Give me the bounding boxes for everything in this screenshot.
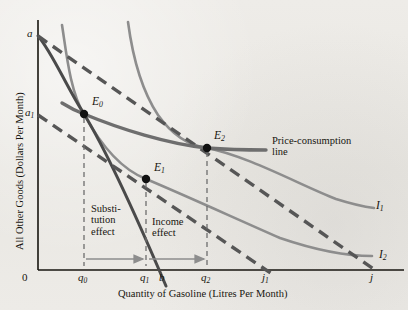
y-tick-a1: a1 — [25, 107, 34, 120]
x-tick-q2-sub: 2 — [207, 276, 211, 285]
y-axis-title: All Other Goods (Dollars Per Month) — [14, 92, 25, 250]
x-axis-title: Quantity of Gasoline (Litres Per Month) — [118, 288, 287, 299]
x-tick-q0: q0 — [78, 272, 87, 285]
label-i1: I1 — [376, 199, 384, 213]
x-tick-q1-sub: 1 — [146, 276, 150, 285]
x-tick-q1: q1 — [140, 272, 149, 285]
point-e2 — [203, 144, 211, 152]
income-line-1: Income — [152, 216, 184, 227]
point-e1 — [142, 175, 150, 183]
label-i1-sub: 1 — [380, 204, 384, 213]
label-i2-sub: 2 — [383, 253, 387, 262]
y-tick-a1-sub: 1 — [31, 111, 35, 120]
label-e1-sub: 1 — [161, 166, 165, 175]
x-tick-q0-sub: 0 — [84, 276, 88, 285]
x-tick-j-text: j — [370, 271, 373, 283]
label-e2: E2 — [214, 129, 225, 143]
label-e1: E1 — [154, 161, 165, 175]
label-e0: E0 — [92, 95, 103, 109]
substitution-line-1: Substi- — [91, 203, 121, 214]
pcl-line-1: Price-consumption — [272, 135, 351, 146]
x-tick-q2: q2 — [201, 272, 210, 285]
label-e0-text: E — [92, 95, 99, 107]
pcl-line-2: line — [272, 146, 351, 157]
indifference-curve-i2 — [128, 22, 374, 208]
annotation-substitution-effect: Substi- tution effect — [91, 203, 121, 237]
figure-root: All Other Goods (Dollars Per Month) Quan… — [0, 0, 408, 310]
budget-line-original — [38, 36, 166, 286]
label-i2: I2 — [379, 248, 387, 262]
y-tick-a: a — [27, 28, 33, 40]
origin-label: 0 — [22, 272, 28, 284]
x-tick-j1: j1 — [262, 272, 269, 285]
x-tick-j1-sub: 1 — [265, 276, 269, 285]
label-e0-sub: 0 — [99, 100, 103, 109]
label-e2-text: E — [214, 129, 221, 141]
annotation-income-effect: Income effect — [152, 216, 184, 239]
x-tick-j: j — [370, 272, 373, 284]
annotation-price-consumption-line: Price-consumption line — [272, 135, 351, 158]
substitution-line-3: effect — [91, 226, 121, 237]
point-e0 — [80, 110, 88, 118]
label-e1-text: E — [154, 161, 161, 173]
origin-label-text: 0 — [22, 271, 28, 283]
x-tick-b: b — [159, 272, 165, 284]
label-e2-sub: 2 — [221, 134, 225, 143]
substitution-line-2: tution — [91, 214, 121, 225]
x-tick-b-text: b — [159, 271, 165, 283]
income-line-2: effect — [152, 227, 184, 238]
y-tick-a-text: a — [27, 27, 33, 39]
